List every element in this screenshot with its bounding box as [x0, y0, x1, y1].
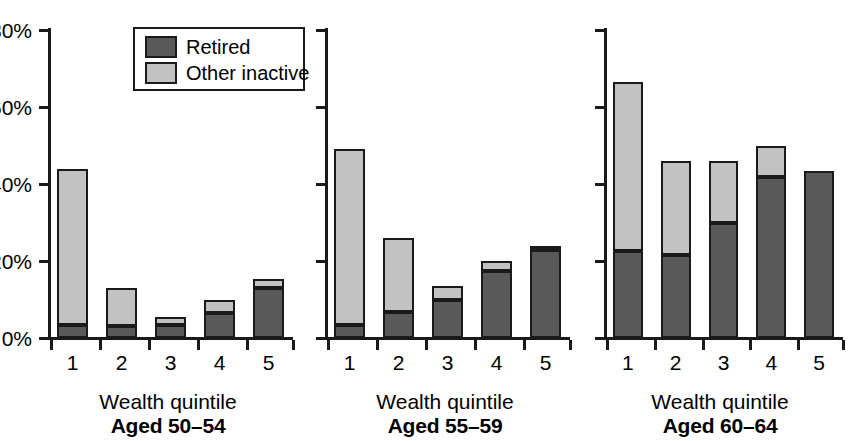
bar-segment-retired [432, 300, 462, 339]
legend-label-retired: Retired [186, 37, 250, 57]
x-axis-tick [246, 340, 249, 350]
x-axis-tick-label: 1 [53, 352, 93, 373]
panel-age-group-label: Aged 55–59 [315, 414, 575, 438]
bar-stack [432, 286, 462, 338]
y-axis-tick [39, 337, 49, 340]
bar-segment-other-inactive [383, 238, 413, 312]
bar-stack [709, 161, 739, 338]
x-axis-tick [749, 340, 752, 350]
panel-xlabel: Wealth quintile [315, 390, 575, 414]
y-axis-tick [39, 29, 49, 32]
bar-segment-retired [253, 288, 283, 338]
bar-segment-other-inactive [756, 146, 786, 178]
bar-segment-retired [155, 325, 185, 338]
x-axis-tick-label: 2 [656, 352, 696, 373]
bar-stack [57, 169, 87, 338]
y-axis-tick [316, 183, 326, 186]
y-axis-tick [39, 260, 49, 263]
x-axis-tick [797, 340, 800, 350]
bar-segment-retired [383, 312, 413, 338]
legend-label-other-inactive: Other inactive [186, 63, 309, 83]
x-axis-tick-label: 4 [751, 352, 791, 373]
x-axis-tick-label: 3 [428, 352, 468, 373]
bar-stack [334, 149, 364, 338]
bar-segment-retired [709, 223, 739, 339]
y-axis-tick [316, 106, 326, 109]
x-axis-tick-label: 3 [704, 352, 744, 373]
legend-swatch-retired-icon [145, 36, 177, 58]
bar-segment-retired [204, 313, 234, 338]
y-axis-tick [316, 29, 326, 32]
panel-caption-aged-55-59: Wealth quintile Aged 55–59 [315, 390, 575, 437]
y-axis-tick [595, 183, 605, 186]
bar-segment-retired [613, 251, 643, 338]
bar-segment-other-inactive [481, 261, 511, 271]
bar-segment-other-inactive [334, 149, 364, 324]
x-axis-tick-label: 1 [330, 352, 370, 373]
bar-segment-retired [530, 250, 560, 338]
panel-aged-50-54: Retired Other inactive Wealth quintile A… [48, 0, 298, 441]
x-axis-tick-label: 5 [249, 352, 289, 373]
bar-stack [613, 82, 643, 338]
x-axis-tick-label: 5 [526, 352, 566, 373]
y-axis-tick [316, 337, 326, 340]
y-axis-tick [316, 260, 326, 263]
x-axis-tick-label: 4 [477, 352, 517, 373]
bar-segment-retired [57, 325, 87, 338]
y-axis-tick-label: 40% [0, 174, 32, 195]
y-axis-tick-label: 20% [0, 251, 32, 272]
y-axis-tick-label: 60% [0, 97, 32, 118]
x-axis-tick [50, 340, 53, 350]
x-axis-tick [842, 340, 845, 350]
x-axis-tick [654, 340, 657, 350]
bar-stack [756, 146, 786, 339]
panel-aged-55-59: Wealth quintile Aged 55–59 12345 [325, 0, 575, 441]
bar-stack [204, 300, 234, 339]
x-axis-tick-label: 2 [379, 352, 419, 373]
bar-segment-retired [106, 326, 136, 338]
x-axis-tick [327, 340, 330, 350]
bar-segment-retired [804, 171, 834, 338]
bar-segment-other-inactive [253, 279, 283, 288]
bar-segment-retired [334, 325, 364, 338]
bar-stack [661, 161, 691, 338]
panel-xlabel: Wealth quintile [38, 390, 298, 414]
x-axis-tick [474, 340, 477, 350]
x-axis-tick [99, 340, 102, 350]
panel-aged-60-64: Wealth quintile Aged 60–64 12345 [604, 0, 849, 441]
bar-stack [804, 171, 834, 338]
x-axis-tick-label: 5 [799, 352, 839, 373]
bar-segment-other-inactive [106, 288, 136, 327]
bar-segment-other-inactive [155, 317, 185, 325]
panel-caption-aged-50-54: Wealth quintile Aged 50–54 [38, 390, 298, 437]
bar-segment-retired [756, 177, 786, 338]
bar-stack [530, 246, 560, 338]
bar-segment-other-inactive [613, 82, 643, 251]
x-axis-tick [569, 340, 572, 350]
bar-segment-other-inactive [432, 286, 462, 299]
x-axis-tick-label: 2 [102, 352, 142, 373]
bar-segment-other-inactive [57, 169, 87, 325]
y-axis-tick [595, 29, 605, 32]
panel-age-group-label: Aged 60–64 [590, 414, 849, 438]
bar-stack [106, 288, 136, 338]
bar-segment-retired [661, 255, 691, 338]
panel-caption-aged-60-64: Wealth quintile Aged 60–64 [590, 390, 849, 437]
x-axis-tick [523, 340, 526, 350]
bar-segment-other-inactive [709, 161, 739, 223]
panel-age-group-label: Aged 50–54 [38, 414, 298, 438]
x-axis-tick-label: 4 [200, 352, 240, 373]
x-axis-tick [425, 340, 428, 350]
y-axis-tick [595, 260, 605, 263]
x-axis-tick [292, 340, 295, 350]
x-axis-tick [702, 340, 705, 350]
legend-item-retired: Retired [141, 34, 297, 60]
y-axis-tick-label: 80% [0, 20, 32, 41]
x-axis-tick [197, 340, 200, 350]
bar-stack [383, 238, 413, 338]
x-axis-tick-label: 3 [151, 352, 191, 373]
y-axis-tick [595, 337, 605, 340]
x-axis-tick-label: 1 [608, 352, 648, 373]
bar-stack [253, 279, 283, 338]
